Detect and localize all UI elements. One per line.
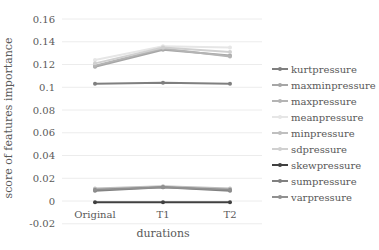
legend-item: maxpressure	[272, 96, 357, 107]
legend-item: maxminpressure	[272, 80, 376, 91]
data-point-marker	[228, 188, 232, 192]
legend-item: meanpressure	[272, 112, 363, 123]
legend: kurtpressuremaxminpressuremaxpressuremea…	[272, 64, 376, 203]
data-point-marker	[161, 45, 165, 49]
data-point-marker	[161, 81, 165, 85]
legend-item: sdpressure	[272, 144, 347, 155]
data-point-marker	[93, 200, 97, 204]
data-point-marker	[228, 45, 232, 49]
y-tick-label: 0.02	[33, 173, 55, 184]
legend-marker-icon	[278, 195, 282, 199]
y-tick-label: 0.12	[33, 59, 55, 70]
y-tick-label: 0.1	[39, 82, 55, 93]
x-axis-ticks: OriginalT1T2	[74, 209, 236, 220]
legend-marker-icon	[278, 115, 282, 119]
legend-item: minpressure	[272, 128, 355, 139]
data-point-marker	[93, 188, 97, 192]
legend-label: skewpressure	[291, 160, 361, 171]
data-point-marker	[228, 200, 232, 204]
legend-item: sumpressure	[272, 176, 357, 187]
legend-label: maxminpressure	[291, 80, 376, 91]
legend-marker-icon	[278, 83, 282, 87]
data-point-marker	[93, 58, 97, 62]
legend-marker-icon	[278, 147, 282, 151]
data-point-marker	[93, 61, 97, 65]
legend-marker-icon	[278, 163, 282, 167]
y-axis-title: score of features importance	[2, 37, 15, 198]
legend-marker-icon	[278, 179, 282, 183]
x-tick-label: Original	[74, 209, 115, 220]
legend-label: sumpressure	[291, 176, 357, 187]
data-point-marker	[228, 55, 232, 59]
legend-item: skewpressure	[272, 160, 361, 171]
legend-label: kurtpressure	[291, 64, 357, 75]
y-tick-label: 0.14	[33, 36, 55, 47]
x-axis-title: durations	[136, 227, 190, 240]
legend-label: sdpressure	[291, 144, 347, 155]
legend-label: meanpressure	[291, 112, 363, 123]
legend-marker-icon	[278, 131, 282, 135]
y-axis-ticks: 0.160.140.120.10.080.060.040.020-0.02	[29, 14, 55, 230]
y-tick-label: 0	[49, 196, 55, 207]
series-kurtpressure	[93, 81, 232, 86]
legend-marker-icon	[278, 99, 282, 103]
data-point-marker	[161, 200, 165, 204]
y-tick-label: 0.16	[33, 14, 55, 25]
legend-label: minpressure	[291, 128, 355, 139]
legend-item: varpressure	[272, 192, 352, 203]
data-point-marker	[228, 50, 232, 54]
line-chart: 0.160.140.120.10.080.060.040.020-0.02 Or…	[0, 0, 379, 250]
legend-marker-icon	[278, 67, 282, 71]
data-point-marker	[161, 185, 165, 189]
y-tick-label: 0.08	[33, 105, 55, 116]
legend-label: maxpressure	[291, 96, 357, 107]
y-tick-label: 0.06	[33, 127, 55, 138]
series-lines	[93, 44, 232, 204]
data-point-marker	[93, 82, 97, 86]
y-tick-label: -0.02	[29, 218, 55, 229]
data-point-marker	[228, 82, 232, 86]
legend-label: varpressure	[290, 192, 352, 203]
x-tick-label: T2	[223, 209, 236, 220]
x-tick-label: T1	[156, 209, 169, 220]
legend-item: kurtpressure	[272, 64, 357, 75]
y-tick-label: 0.04	[33, 150, 55, 161]
